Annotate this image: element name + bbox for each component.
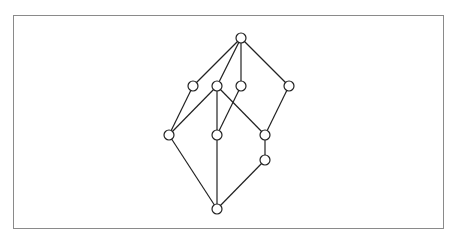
- node-c1: [260, 155, 270, 165]
- edge-top-a2: [217, 38, 241, 86]
- diagram-edges: [169, 38, 289, 209]
- node-a1: [188, 81, 198, 91]
- node-bottom: [212, 204, 222, 214]
- edge-a4-b3: [265, 86, 289, 135]
- node-b2: [212, 130, 222, 140]
- node-a3: [236, 81, 246, 91]
- edge-a2-b1: [169, 86, 217, 135]
- node-a2: [212, 81, 222, 91]
- node-top: [236, 33, 246, 43]
- edge-b1-bottom: [169, 135, 217, 209]
- hasse-diagram: [0, 0, 457, 241]
- edge-top-a1: [193, 38, 241, 86]
- node-b1: [164, 130, 174, 140]
- edge-top-a4: [241, 38, 289, 86]
- edge-c1-bottom: [217, 160, 265, 209]
- edge-a2-b3: [217, 86, 265, 135]
- node-b3: [260, 130, 270, 140]
- node-a4: [284, 81, 294, 91]
- edge-a1-b1: [169, 86, 193, 135]
- edge-a3-b2: [217, 86, 241, 135]
- diagram-nodes: [164, 33, 294, 214]
